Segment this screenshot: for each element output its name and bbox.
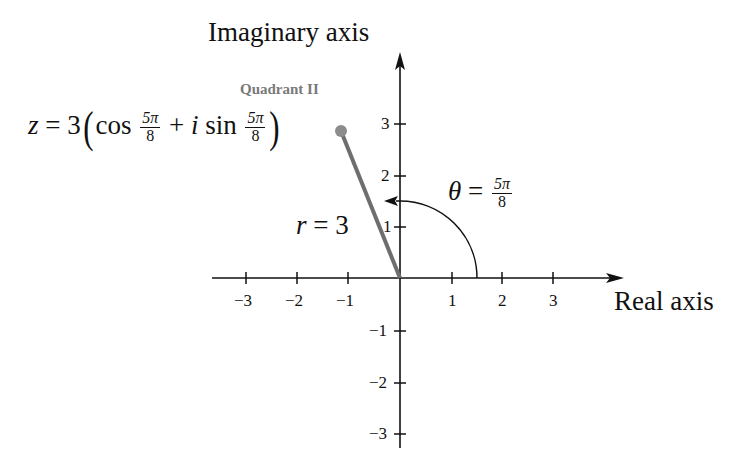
- x-tick-label: 2: [498, 292, 507, 309]
- z-symbol: z: [28, 110, 39, 140]
- x-tick-label: 1: [448, 292, 457, 309]
- y-tick-label: −2: [369, 374, 387, 391]
- imaginary-axis-title: Imaginary axis: [208, 19, 369, 46]
- angle-arrow-icon: [384, 196, 398, 206]
- z-polar-form: z = 3(cos 5π8 + i sin 5π8): [28, 110, 282, 145]
- left-paren: (: [83, 110, 93, 145]
- quadrant-label: Quadrant II: [240, 82, 319, 97]
- argument-label: θ = 5π8: [448, 176, 514, 211]
- y-tick-label: 1: [383, 218, 392, 235]
- right-paren: ): [270, 110, 280, 145]
- x-tick-label: 3: [549, 292, 558, 309]
- y-tick-label: 2: [381, 167, 390, 184]
- modulus-label: r = 3: [296, 212, 349, 239]
- fraction-5pi-8: 5π8: [245, 110, 265, 145]
- plus-sign: +: [169, 110, 184, 140]
- modulus-vector: [341, 131, 400, 278]
- z-equals: = 3: [45, 110, 80, 140]
- cos-text: cos: [95, 110, 131, 140]
- y-tick-label: −1: [369, 322, 387, 339]
- complex-plane: [0, 0, 742, 474]
- sin-text: sin: [205, 110, 237, 140]
- point-z: [335, 125, 347, 137]
- y-tick-label: −3: [369, 425, 387, 442]
- fraction-5pi-8: 5π8: [492, 176, 512, 211]
- i-symbol: i: [191, 110, 199, 140]
- x-tick-label: −2: [285, 292, 303, 309]
- x-tick-label: −1: [336, 292, 354, 309]
- real-axis-title: Real axis: [614, 288, 714, 315]
- angle-arc: [396, 201, 477, 278]
- fraction-5pi-8: 5π8: [140, 110, 160, 145]
- y-tick-label: 3: [381, 115, 390, 132]
- x-tick-label: −3: [234, 292, 252, 309]
